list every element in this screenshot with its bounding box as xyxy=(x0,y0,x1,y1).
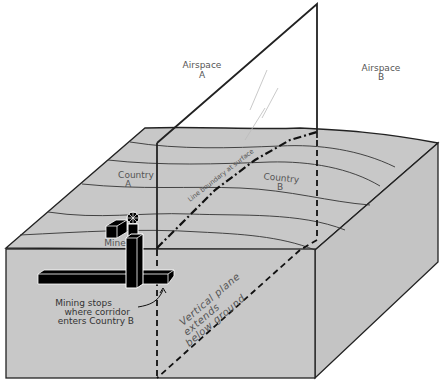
country-a-label: Country xyxy=(118,170,154,180)
country-b-letter: B xyxy=(277,182,283,192)
mine-corridor-icon xyxy=(38,270,174,284)
ground-front-face xyxy=(6,249,315,378)
mine-hoist-icon xyxy=(127,212,139,236)
airspace-a-letter: A xyxy=(199,70,206,80)
mine-shaft-icon xyxy=(126,234,143,288)
boundary-diagram: Airspace A Airspace B Country A Country … xyxy=(0,0,440,386)
country-a-letter: A xyxy=(125,179,132,189)
airspace-a-label: Airspace xyxy=(183,60,222,70)
airspace-b-letter: B xyxy=(378,72,384,82)
vertical-plane-airspace xyxy=(157,4,317,143)
mining-stops-label-3: enters Country B xyxy=(58,316,134,326)
mine-label: Mine xyxy=(104,238,126,248)
